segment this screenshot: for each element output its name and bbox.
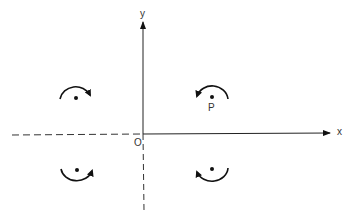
rotation-lower-left (61, 168, 92, 181)
point-dot (74, 96, 78, 100)
x-axis-negative (12, 134, 143, 135)
y-axis-negative (143, 134, 144, 210)
rotation-diagram (0, 0, 352, 224)
point-dot (75, 168, 79, 172)
rotation-upper-left (60, 87, 90, 100)
y-axis-label: y (140, 9, 145, 19)
rotation-lower-right (197, 167, 228, 181)
x-axis-label: x (337, 127, 342, 137)
rotation-upper-right (197, 86, 228, 99)
point-dot (210, 167, 214, 171)
origin-label: O (134, 138, 142, 148)
point-p-label: P (208, 103, 215, 113)
point-dot (210, 95, 214, 99)
x-axis (143, 133, 330, 134)
